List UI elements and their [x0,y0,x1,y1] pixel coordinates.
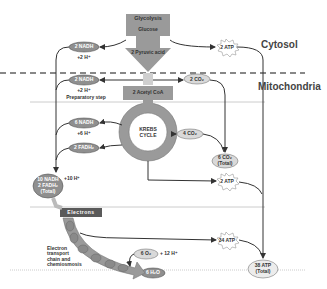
co2-krebs-label: 4 CO₂ [178,131,202,136]
etc-label-4: chemiosmosis [47,262,82,267]
cytosol-label: Cytosol [261,40,298,51]
atp-etc-label: 34 ATP [216,238,238,243]
mitochondria-label: Mitochondria [258,82,321,93]
total-nadh-line3: (Total) [33,189,63,194]
nadh-krebs-label: 6 NADH [69,120,99,125]
atp-total-line2: (Total) [248,269,278,274]
pyruvic-acid-label: 2 Pyruvic acid [128,50,168,55]
nadh-prep-label: 2 NADH [69,77,99,82]
water-label: 6 H₂O [141,270,165,275]
fadh2-label: 2 FADH₂ [69,145,99,150]
o2-label: 6 O₂ [134,251,158,256]
h-plus-etc: + 12 H⁺ [160,251,178,256]
atp-glycolysis-label: 2 ATP [216,45,238,50]
h-plus-total: +10 H⁺ [64,176,80,181]
h-plus-glycolysis: +2 H⁺ [72,55,96,60]
h-plus-krebs: +6 H⁺ [72,131,96,136]
co2-total-label-2: (Total) [212,161,238,166]
krebs-label-2: CYCLE [134,133,162,138]
nadh-glycolysis-label: 2 NADH [69,44,99,49]
glucose-label: Glucose [126,27,170,32]
co2-prep-label: 2 CO₂ [185,77,209,82]
etc-label: Electron transport chain and chemiosmosi… [47,246,82,267]
glycolysis-label: Glycolysis [126,16,170,22]
atp-krebs-label: 2 ATP [216,179,238,184]
electrons-label: Electrons [60,210,102,215]
preparatory-step-label: Preparatory step [62,95,110,100]
h-plus-prep: +2 H⁺ [72,88,96,93]
acetyl-coa-label: 2 Acetyl CoA [123,90,173,95]
